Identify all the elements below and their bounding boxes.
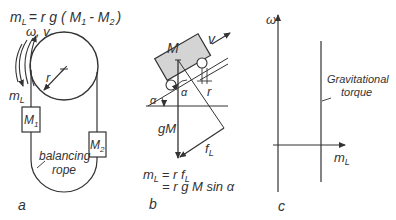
mass-label: M	[167, 40, 179, 56]
rope-label-line2: rope	[52, 163, 76, 177]
angle-arc-incline	[162, 98, 164, 106]
panel-b: r v M gM fL α α mL= r fL = r g M sin α b	[143, 31, 235, 212]
torque-axis-label: mL	[334, 150, 350, 167]
diagram-canvas: mL= r g ( M1- M2) r M1 M2 ω, v mL balanc…	[0, 0, 396, 220]
panel-c: ω mL Gravitational torque c	[266, 12, 389, 214]
wheel-front-icon	[166, 80, 176, 90]
omega-axis-label: ω	[266, 12, 276, 27]
pulley-wheel	[30, 32, 98, 100]
panel-c-label: c	[278, 198, 285, 214]
force-fl-arrow	[180, 128, 224, 157]
panel-a: mL= r g ( M1- M2) r M1 M2 ω, v mL balanc…	[9, 9, 121, 213]
force-fl-label: fL	[205, 141, 214, 158]
omega-v-label: ω, v	[26, 24, 51, 39]
weight-label: gM	[158, 121, 176, 136]
torque-curve-label-line1: Gravitational	[327, 73, 389, 85]
torque-label: mL	[9, 88, 25, 105]
angle-label-incline: α	[150, 94, 157, 106]
panel-b-label: b	[149, 196, 157, 212]
rope-label-line1: balancing	[39, 149, 91, 163]
wheel-rear-icon	[197, 58, 207, 68]
panel-a-label: a	[18, 197, 26, 213]
equation-line2: = r g M sin α	[162, 179, 235, 194]
angle-label-vertical: α	[181, 86, 188, 98]
wheel-radius-label: r	[207, 84, 212, 99]
radius-label: r	[46, 70, 51, 85]
elevator-torque-diagram: mL= r g ( M1- M2) r M1 M2 ω, v mL balanc…	[0, 0, 396, 220]
torque-curve-label-line2: torque	[341, 86, 372, 98]
torque-leader-line	[322, 98, 331, 101]
velocity-label: v	[208, 31, 216, 47]
